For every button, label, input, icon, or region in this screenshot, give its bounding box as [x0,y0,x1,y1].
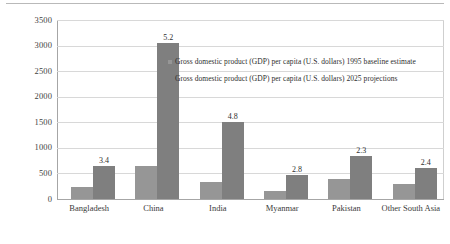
y-tick-value: 0 [6,195,52,204]
top-divider-rule [6,3,444,4]
legend-swatch-icon-projection [168,77,172,81]
y-tick-label: 3000 [0,41,52,50]
legend-swatch-icon-baseline [168,60,172,64]
category-label: Myanmar [250,203,314,213]
bar [264,191,286,199]
category-label: China [121,203,185,213]
bar-value-label: 2.4 [421,159,431,167]
bar: 2.4 [415,168,437,199]
y-tick-label: 500 [0,169,52,178]
category-label: India [186,203,250,213]
legend-item-baseline-1995: Gross domestic product (GDP) per capita … [168,57,436,66]
bar-group: 3.4 [57,20,121,199]
y-tick-label: 0 [0,195,52,204]
category-label: Bangladesh [57,203,121,213]
bar [135,166,157,199]
bar [393,184,415,199]
x-axis-line [57,199,444,200]
bar-value-label: 3.4 [99,157,109,165]
y-tick-label: 1000 [0,143,52,152]
bar [71,187,93,199]
bar: 3.4 [93,166,115,199]
y-tick-value: 1000 [6,143,52,152]
y-tick-label: 1500 [0,118,52,127]
y-tick-value: 3500 [6,16,52,25]
bar-value-label: 2.3 [356,147,366,155]
legend-label-projection: Gross domestic product (GDP) per capita … [175,74,397,83]
x-axis-category-labels: BangladeshChinaIndiaMyanmarPakistanOther… [57,203,443,213]
category-label: Other South Asia [379,203,443,213]
bar-group: 4.8 [186,20,250,199]
bar: 2.3 [350,156,372,199]
y-tick-value: 2500 [6,67,52,76]
y-tick-value: 2000 [6,92,52,101]
bar-group: 2.3 [314,20,378,199]
category-label: Pakistan [314,203,378,213]
bar-group: 5.2 [121,20,185,199]
y-tick-label: 3500 [0,16,52,25]
y-tick-value: 500 [6,169,52,178]
bar [200,182,222,199]
legend-label-baseline: Gross domestic product (GDP) per capita … [175,57,416,66]
bar-groups: 3.45.24.82.82.32.4 [57,20,443,199]
bar-value-label: 5.2 [163,34,173,42]
bar-value-label: 2.8 [292,166,302,174]
y-tick-label: 2500 [0,67,52,76]
bar-value-label: 4.8 [228,113,238,121]
gdp-per-capita-bar-chart: 0500100015002000250030003500 3.45.24.82.… [0,0,450,244]
y-tick-value: 1500 [6,118,52,127]
chart-legend: Gross domestic product (GDP) per capita … [168,57,436,91]
legend-item-projection-2025: Gross domestic product (GDP) per capita … [168,74,436,83]
bar: 4.8 [222,122,244,199]
bar-group: 2.4 [379,20,443,199]
bar [328,179,350,199]
bar-group: 2.8 [250,20,314,199]
bar: 2.8 [286,175,308,199]
y-tick-label: 2000 [0,92,52,101]
y-tick-value: 3000 [6,41,52,50]
